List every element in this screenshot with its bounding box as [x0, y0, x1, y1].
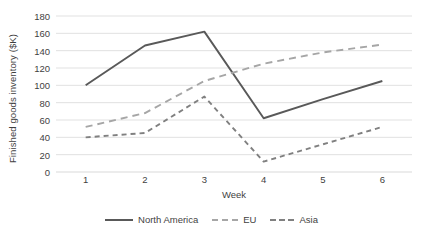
series-line-eu [86, 45, 383, 127]
plot-area [56, 16, 412, 172]
y-tick-label: 40 [39, 132, 50, 143]
y-tick-label: 80 [39, 97, 50, 108]
gridlines [56, 16, 412, 172]
y-tick-label: 20 [39, 149, 50, 160]
x-axis-tick-labels: 123456 [56, 174, 412, 190]
line-chart: Finished goods inventory ($K) 1801601401… [0, 0, 423, 244]
y-tick-label: 120 [34, 63, 50, 74]
legend-swatch-icon [105, 219, 133, 221]
x-tick-label: 4 [261, 174, 266, 185]
y-tick-label: 160 [34, 28, 50, 39]
chart-legend: North AmericaEUAsia [0, 214, 423, 225]
series-line-north-america [86, 32, 383, 119]
legend-swatch-icon [212, 219, 238, 221]
series-lines [86, 32, 383, 162]
y-tick-label: 140 [34, 45, 50, 56]
legend-label: EU [243, 214, 256, 225]
legend-item-eu[interactable]: EU [212, 214, 256, 225]
y-tick-label: 0 [45, 167, 50, 178]
y-tick-label: 100 [34, 80, 50, 91]
legend-label: Asia [299, 214, 317, 225]
x-tick-label: 6 [380, 174, 385, 185]
legend-item-north-america[interactable]: North America [105, 214, 198, 225]
x-tick-label: 3 [202, 174, 207, 185]
plot-svg [56, 16, 412, 172]
x-axis-title: Week [56, 189, 412, 200]
y-tick-label: 60 [39, 115, 50, 126]
x-tick-label: 2 [142, 174, 147, 185]
x-tick-label: 5 [320, 174, 325, 185]
legend-item-asia[interactable]: Asia [270, 214, 317, 225]
y-axis-tick-labels: 180160140120100806040200 [22, 0, 54, 196]
legend-swatch-icon [270, 219, 294, 221]
legend-label: North America [138, 214, 198, 225]
x-tick-label: 1 [83, 174, 88, 185]
series-line-asia [86, 97, 383, 162]
y-tick-label: 180 [34, 11, 50, 22]
y-axis-title-label: Finished goods inventory ($K) [8, 33, 19, 162]
